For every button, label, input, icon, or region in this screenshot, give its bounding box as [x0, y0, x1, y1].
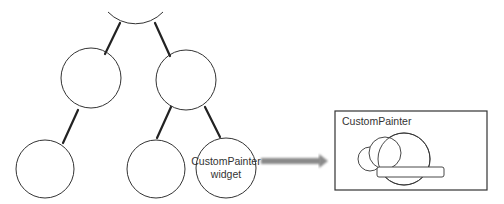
node-label-line1: CustomPainter	[191, 155, 261, 167]
node-bottom-left	[16, 140, 74, 198]
tree-edges	[63, 23, 220, 143]
custom-painter-canvas: CustomPainter	[335, 111, 487, 190]
widget-tree-diagram: CustomPainter widget CustomPainter	[0, 0, 504, 204]
edge-mid-left-bottom-left	[63, 110, 78, 143]
canvas-title: CustomPainter	[342, 115, 412, 127]
node-bottom-middle	[127, 140, 185, 198]
node-mid-right	[156, 50, 216, 110]
node-mid-left	[61, 48, 121, 108]
node-label-line2: widget	[210, 168, 241, 180]
edge-mid-right-bottom-right	[205, 107, 220, 137]
edge-root-mid-right	[155, 23, 170, 56]
edge-mid-right-bottom-middle	[157, 107, 171, 138]
arrow-icon	[261, 154, 328, 168]
edge-root-mid-left	[105, 23, 120, 54]
